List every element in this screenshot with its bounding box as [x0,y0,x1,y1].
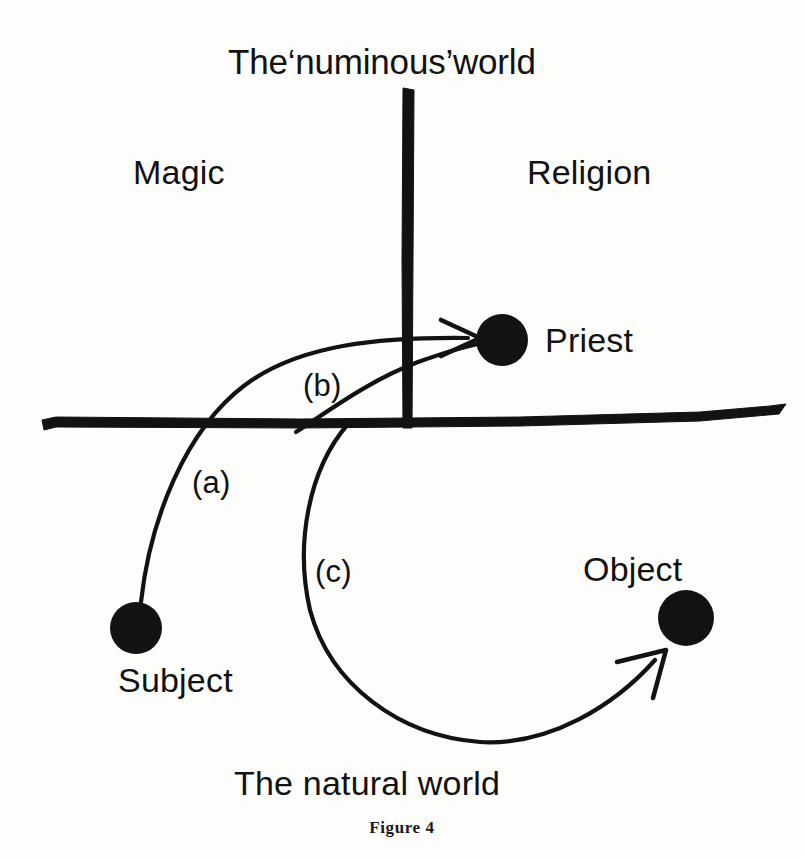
node-label-subject: Subject [118,663,233,697]
region-label-natural-world: The natural world [234,766,500,800]
numinous-axis [402,88,414,428]
world-boundary-axis [42,404,786,430]
diagram-canvas [0,0,804,859]
node-label-priest: Priest [545,323,633,357]
figure-4-diagram: The‘numinous’world Magic Religion Priest… [0,0,804,859]
node-subject-dot[interactable] [110,602,162,654]
node-object-dot[interactable] [658,590,714,646]
quadrant-label-religion: Religion [527,155,651,189]
diagram-title: The‘numinous’world [228,44,536,79]
node-label-object: Object [583,552,682,586]
node-priest-dot[interactable] [476,314,528,366]
edge-label-a: (a) [192,467,231,498]
edge-label-c: (c) [315,556,352,587]
quadrant-label-magic: Magic [133,155,225,189]
edge-label-b: (b) [303,370,342,401]
figure-caption: Figure 4 [0,818,804,838]
